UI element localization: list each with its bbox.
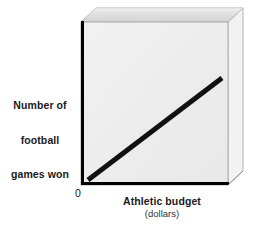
x-axis-sublabel: (dollars) [94,208,230,220]
figure-container: Number of football games won 0 Athletic … [0,0,269,225]
box-right-face [228,8,243,185]
y-axis-label-line-1: Number of [0,100,80,112]
x-axis-origin-label: 0 [70,188,86,200]
plot-front-face [81,22,228,185]
y-axis-label-line-2: football [0,135,80,147]
x-axis-label: Athletic budget [94,196,230,208]
y-axis-label: Number of football games won [0,77,80,204]
y-axis-label-line-3: games won [0,169,80,181]
box-top-face-shade [81,8,243,22]
